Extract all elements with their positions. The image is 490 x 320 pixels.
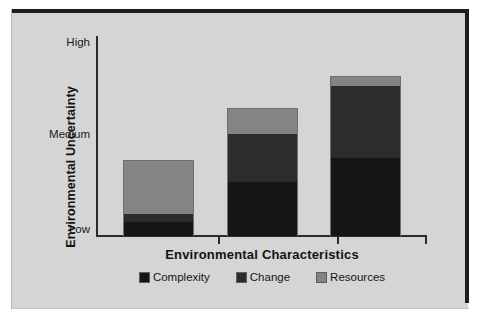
bar-3-segment-change[interactable] [330, 86, 401, 158]
legend-swatch-change-icon [236, 272, 247, 283]
legend-label-resources: Resources [330, 271, 385, 283]
x-axis-tick-2 [337, 237, 339, 244]
figure-root: Environmental Uncertainty High Medium Lo… [0, 0, 490, 320]
legend-label-complexity: Complexity [153, 271, 210, 283]
frame-right-rule [465, 9, 469, 303]
x-axis-tick-1 [218, 237, 220, 244]
chart-legend: ComplexityChangeResources [97, 271, 427, 283]
bar-3-segment-complexity[interactable] [330, 158, 401, 236]
y-tick-label-medium: Medium [26, 128, 90, 140]
bar-2[interactable] [227, 108, 298, 236]
bar-1[interactable] [123, 160, 194, 236]
frame-left-rule [11, 9, 12, 309]
legend-item-change[interactable]: Change [236, 271, 290, 283]
legend-swatch-resources-icon [316, 272, 327, 283]
y-tick-label-low: Low [40, 223, 90, 235]
legend-swatch-complexity-icon [139, 272, 150, 283]
bar-1-segment-resources[interactable] [123, 160, 194, 214]
bar-2-segment-change[interactable] [227, 134, 298, 182]
bar-1-segment-complexity[interactable] [123, 222, 194, 236]
x-axis-tick-3 [425, 237, 427, 244]
legend-label-change: Change [250, 271, 290, 283]
frame-top-rule [11, 9, 469, 13]
bar-2-segment-resources[interactable] [227, 108, 298, 134]
x-axis-title: Environmental Characteristics [97, 247, 427, 262]
bar-1-segment-change[interactable] [123, 214, 194, 222]
legend-item-complexity[interactable]: Complexity [139, 271, 210, 283]
plot-area [97, 36, 427, 236]
frame-bottom-rule [11, 308, 469, 309]
legend-item-resources[interactable]: Resources [316, 271, 385, 283]
y-tick-label-high: High [40, 36, 90, 48]
bar-3-segment-resources[interactable] [330, 76, 401, 86]
bar-3[interactable] [330, 76, 401, 236]
bar-2-segment-complexity[interactable] [227, 182, 298, 236]
